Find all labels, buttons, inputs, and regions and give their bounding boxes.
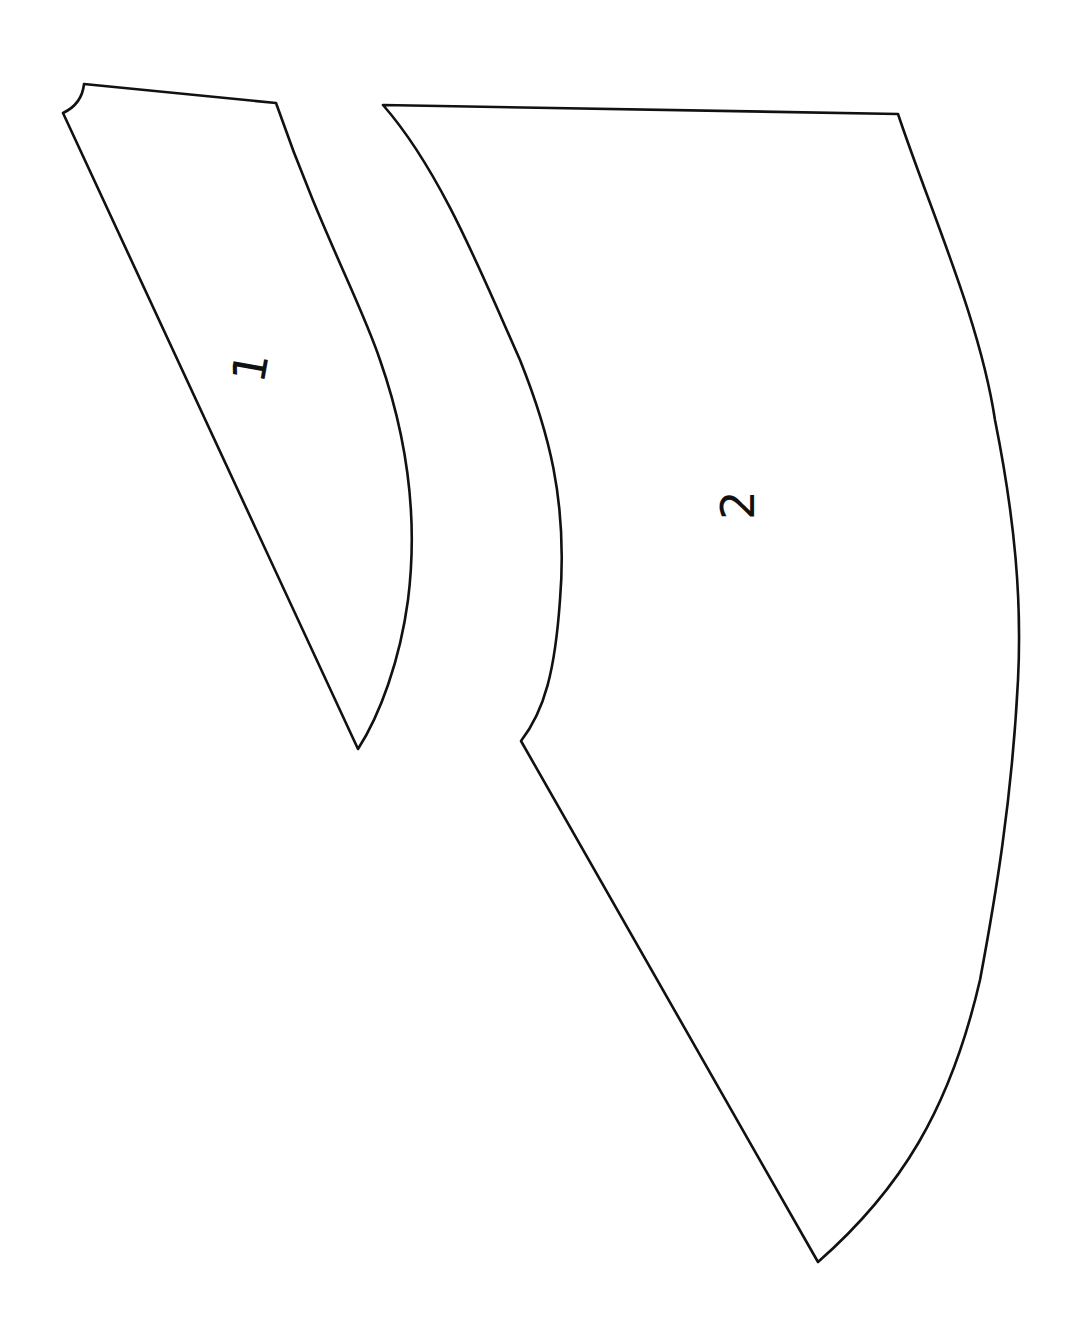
pattern-canvas: 1 2 — [0, 0, 1074, 1344]
pattern-piece-2: 2 — [383, 105, 1019, 1262]
pattern-piece-1: 1 — [63, 84, 412, 749]
piece-2-label: 2 — [711, 490, 765, 519]
piece-1-outline — [63, 84, 412, 749]
piece-2-outline — [383, 105, 1019, 1262]
